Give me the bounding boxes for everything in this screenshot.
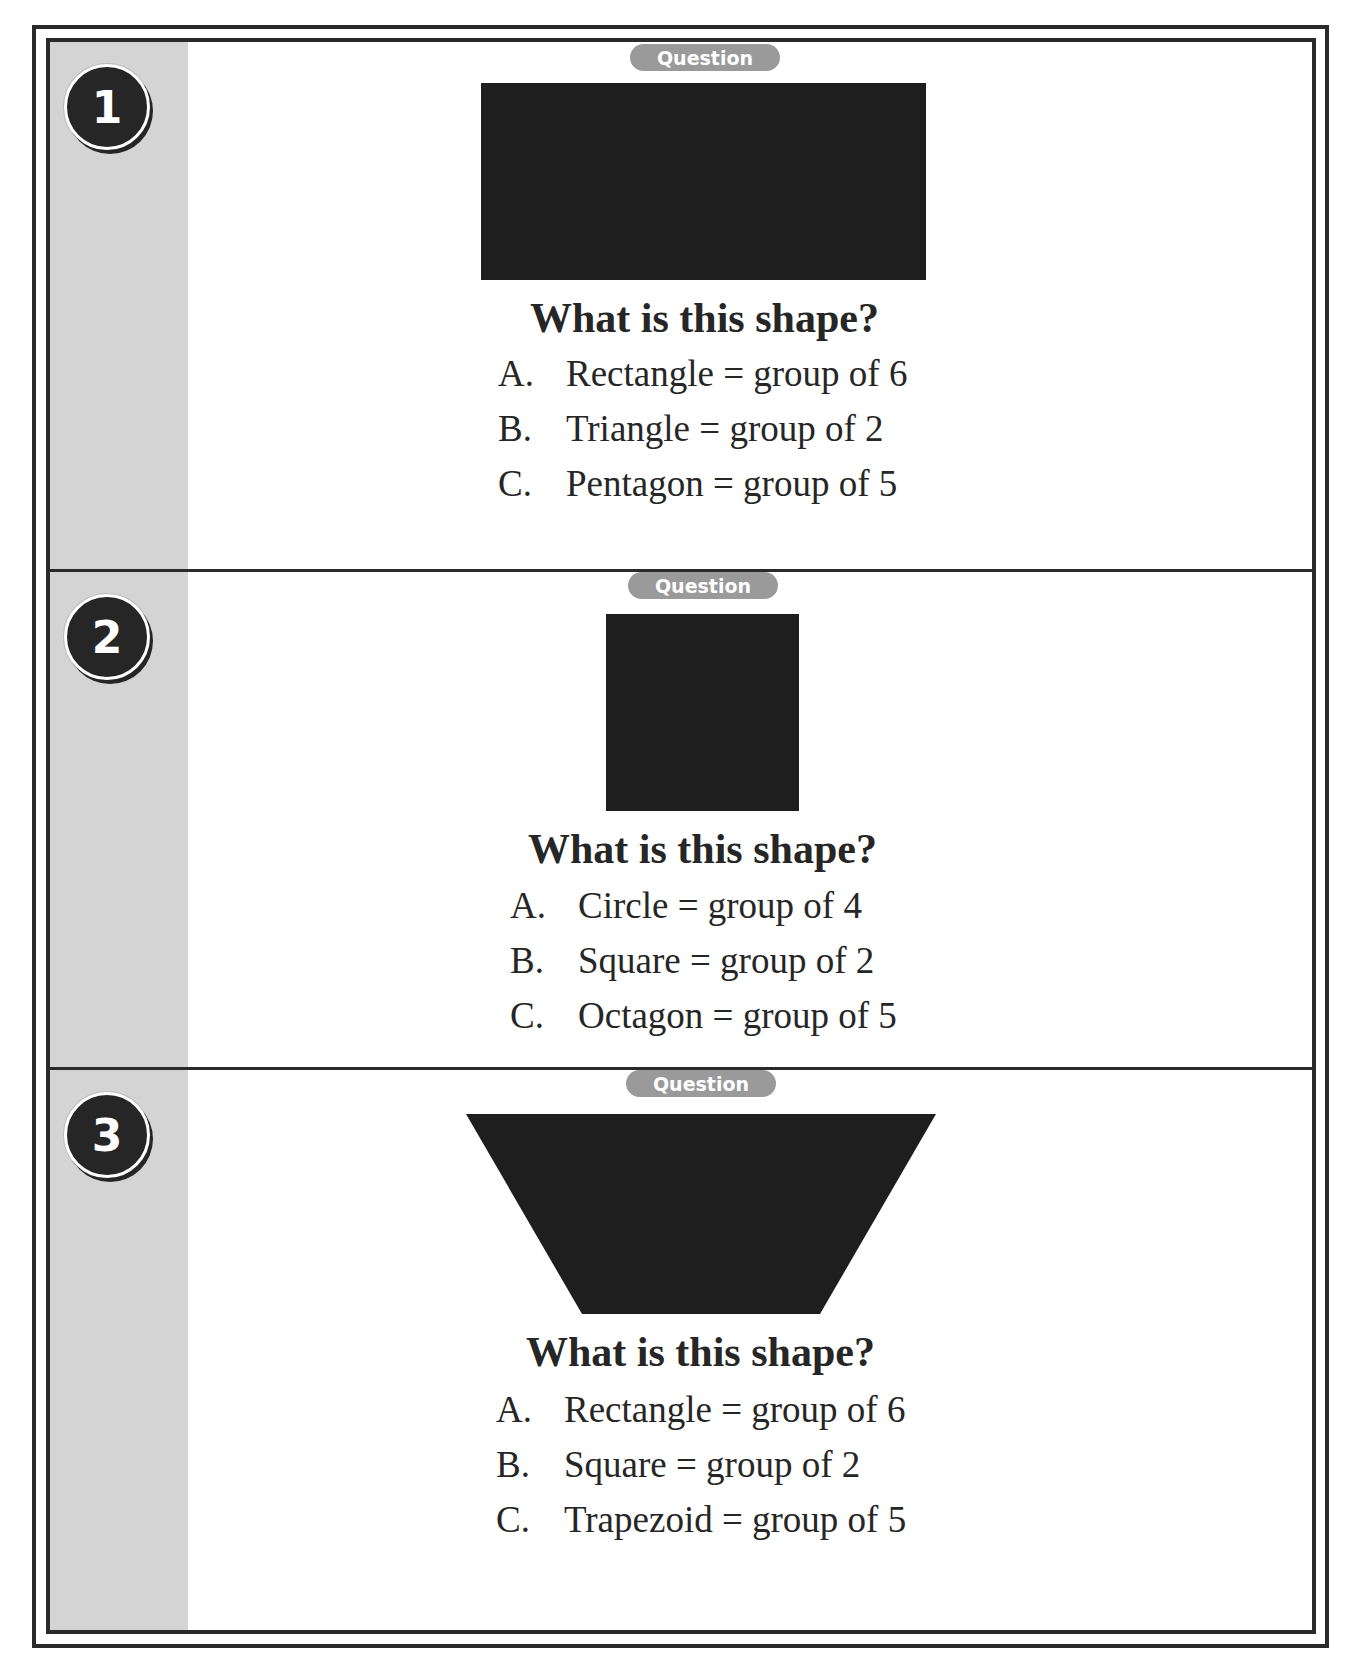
answer-option-b[interactable]: B.Square = group of 2 [510,939,874,982]
worksheet-frame: 1 Question What is this shape? A.Rectang… [46,38,1316,1634]
option-letter: A. [496,1388,564,1431]
option-text: Triangle = group of 2 [566,408,884,449]
option-text: Trapezoid = group of 5 [564,1499,906,1540]
question-tag: Question [630,44,780,71]
option-text: Square = group of 2 [564,1444,860,1485]
question-prompt: What is this shape? [528,825,877,873]
question-prompt: What is this shape? [530,294,879,342]
question-number-badge: 1 [64,64,150,150]
answer-option-c[interactable]: C.Octagon = group of 5 [510,994,897,1037]
option-text: Rectangle = group of 6 [564,1389,905,1430]
rectangle-shape [481,83,926,280]
answer-option-a[interactable]: A.Circle = group of 4 [510,884,862,927]
question-prompt: What is this shape? [526,1328,875,1376]
question-tag: Question [628,572,778,599]
option-letter: C. [498,462,566,505]
option-letter: B. [496,1443,564,1486]
option-text: Rectangle = group of 6 [566,353,907,394]
question-number-badge: 3 [64,1092,150,1178]
option-text: Circle = group of 4 [578,885,862,926]
answer-option-a[interactable]: A.Rectangle = group of 6 [496,1388,905,1431]
question-tag: Question [626,1070,776,1097]
trapezoid-shape [466,1114,936,1314]
answer-option-c[interactable]: C.Trapezoid = group of 5 [496,1498,906,1541]
option-text: Octagon = group of 5 [578,995,897,1036]
square-shape [606,614,799,811]
question-number-badge: 2 [64,594,150,680]
option-letter: C. [510,994,578,1037]
question-card-1: 1 Question What is this shape? A.Rectang… [50,42,1312,569]
answer-option-b[interactable]: B.Triangle = group of 2 [498,407,884,450]
option-text: Square = group of 2 [578,940,874,981]
option-letter: A. [510,884,578,927]
option-letter: B. [510,939,578,982]
question-card-2: 2 Question What is this shape? A.Circle … [50,569,1312,1067]
option-letter: A. [498,352,566,395]
answer-option-c[interactable]: C.Pentagon = group of 5 [498,462,897,505]
answer-option-b[interactable]: B.Square = group of 2 [496,1443,860,1486]
option-letter: B. [498,407,566,450]
option-letter: C. [496,1498,564,1541]
answer-option-a[interactable]: A.Rectangle = group of 6 [498,352,907,395]
question-card-3: 3 Question What is this shape? A.Rectang… [50,1067,1312,1630]
option-text: Pentagon = group of 5 [566,463,897,504]
